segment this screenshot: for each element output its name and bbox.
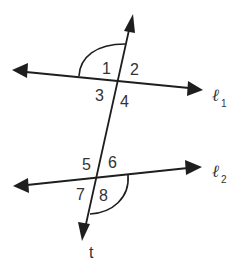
svg-text:2: 2 (221, 174, 227, 185)
angle-label-7: 7 (76, 186, 85, 203)
parallel-lines-diagram: 1 2 3 4 5 6 7 8 ℓ 1 ℓ 2 t (0, 0, 239, 271)
arrow-right-icon (185, 160, 202, 175)
arrow-left-icon (12, 63, 28, 78)
arrow-down-icon (78, 222, 90, 241)
svg-text:ℓ: ℓ (212, 85, 219, 105)
angle-label-6: 6 (108, 154, 117, 171)
arrow-left-icon (13, 178, 29, 193)
svg-text:1: 1 (221, 98, 227, 109)
angle-label-1: 1 (102, 60, 111, 77)
angle-label-3: 3 (95, 87, 104, 104)
angle-label-8: 8 (99, 187, 108, 204)
label-t: t (89, 244, 94, 261)
label-l2: ℓ 2 (212, 161, 227, 185)
angle-label-2: 2 (130, 61, 139, 78)
arrow-up-icon (124, 14, 135, 33)
angle-label-5: 5 (82, 156, 91, 173)
arrow-right-icon (187, 81, 203, 96)
transversal-t (78, 14, 135, 241)
label-l1: ℓ 1 (212, 85, 227, 109)
angle-label-4: 4 (120, 93, 129, 110)
svg-text:ℓ: ℓ (212, 161, 219, 181)
